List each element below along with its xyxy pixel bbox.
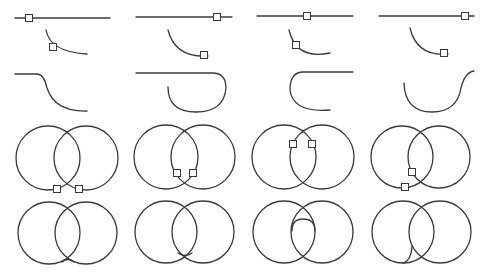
circle — [371, 126, 433, 188]
grip-square-icon — [214, 14, 221, 21]
grip-square-icon — [293, 42, 300, 49]
fillet-arc — [403, 246, 412, 263]
circle — [372, 201, 434, 263]
grip-square-icon — [26, 15, 33, 22]
circle — [18, 202, 80, 264]
circle — [408, 126, 470, 188]
blended-curve — [290, 72, 353, 110]
circle — [135, 201, 197, 263]
fillet-arc — [292, 219, 315, 231]
blended-curve — [136, 73, 226, 112]
diagram-canvas — [0, 0, 482, 280]
circle — [16, 126, 80, 190]
circle — [134, 125, 198, 189]
grip-square-icon — [174, 170, 181, 177]
circle — [409, 201, 471, 263]
grip-square-icon — [309, 141, 316, 148]
circle — [54, 126, 118, 190]
grip-square-icon — [290, 141, 297, 148]
grip-square-icon — [441, 50, 448, 57]
circle — [172, 201, 234, 263]
circle — [252, 125, 316, 189]
blended-curve — [15, 74, 87, 111]
circle — [253, 201, 315, 263]
grip-square-icon — [190, 170, 197, 177]
grip-square-icon — [304, 13, 311, 20]
fillet-diagram — [0, 0, 482, 280]
grip-square-icon — [402, 184, 409, 191]
circle — [171, 125, 235, 189]
grip-square-icon — [462, 13, 469, 20]
grip-square-icon — [54, 186, 61, 193]
grip-square-icon — [50, 44, 57, 51]
circle — [290, 125, 354, 189]
grip-square-icon — [409, 169, 416, 176]
circle — [55, 202, 117, 264]
circle — [291, 201, 353, 263]
grip-square-icon — [201, 52, 208, 59]
grip-square-icon — [76, 186, 83, 193]
blended-curve — [404, 71, 474, 112]
